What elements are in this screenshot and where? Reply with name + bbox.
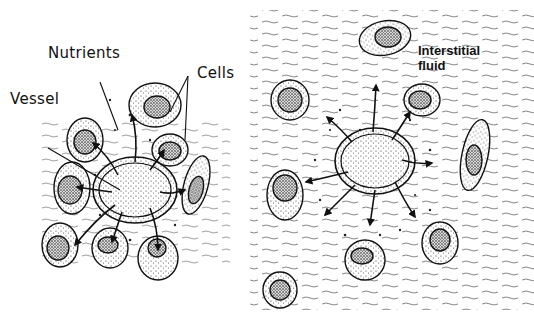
label-fluid: fluid: [418, 59, 445, 72]
label-vessel: Vessel: [10, 92, 59, 107]
label-interstitial: Interstitial: [418, 44, 480, 57]
right-panel: [250, 10, 534, 310]
diagram-canvas: Nutrients Cells Vessel Interstitial flui…: [0, 0, 534, 317]
left-panel: [40, 76, 230, 280]
label-cells: Cells: [197, 66, 234, 81]
label-nutrients: Nutrients: [48, 46, 120, 61]
